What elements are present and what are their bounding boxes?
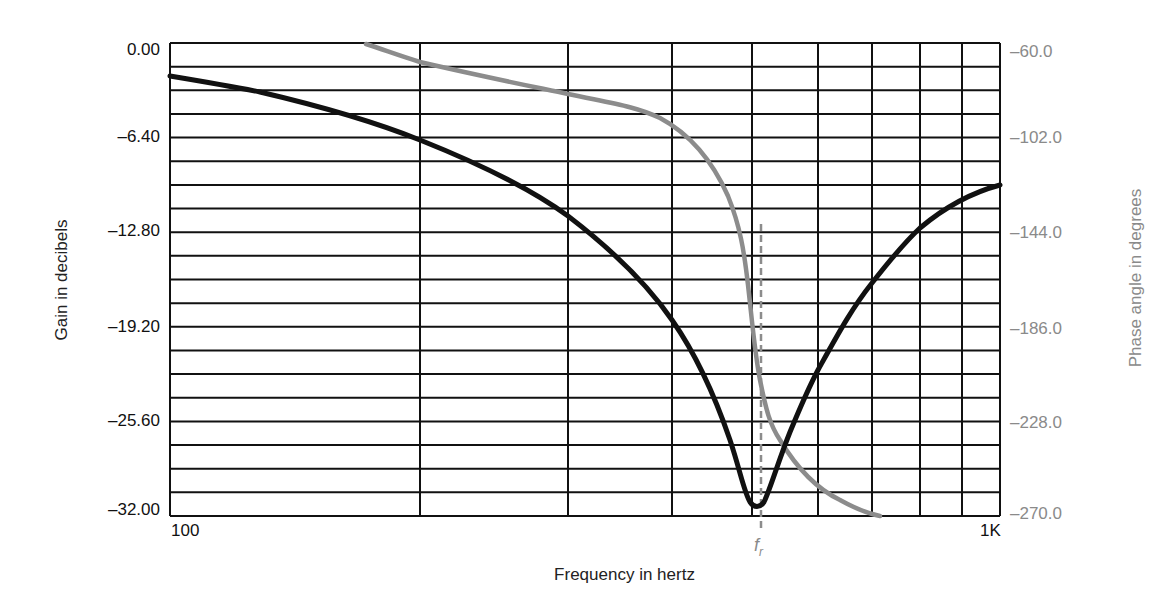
right-tick-5: –270.0 [1010,505,1062,522]
left-tick-0: 0.00 [60,41,160,58]
fr-subscript: r [759,545,763,559]
right-tick-3: –186.0 [1010,320,1062,337]
right-tick-0: –60.0 [1010,43,1053,60]
right-tick-1: –102.0 [1010,129,1062,146]
left-tick-1: –6.40 [60,128,160,145]
x-axis-title: Frequency in hertz [0,565,1169,585]
x-tick-1k: 1K [980,522,1001,539]
right-tick-4: –228.0 [1010,414,1062,431]
resonant-frequency-label: fr [754,536,763,558]
gain-curve [170,76,1000,507]
chart-plot [0,0,1169,593]
x-tick-100: 100 [171,522,199,539]
left-tick-4: –25.60 [60,412,160,429]
right-axis-title: Phase angle in degrees [1126,168,1146,388]
left-tick-2: –12.80 [60,222,160,239]
left-tick-3: –19.20 [60,318,160,335]
left-axis-title: Gain in decibels [52,200,72,360]
left-tick-5: –32.00 [60,501,160,518]
right-tick-2: –144.0 [1010,224,1062,241]
